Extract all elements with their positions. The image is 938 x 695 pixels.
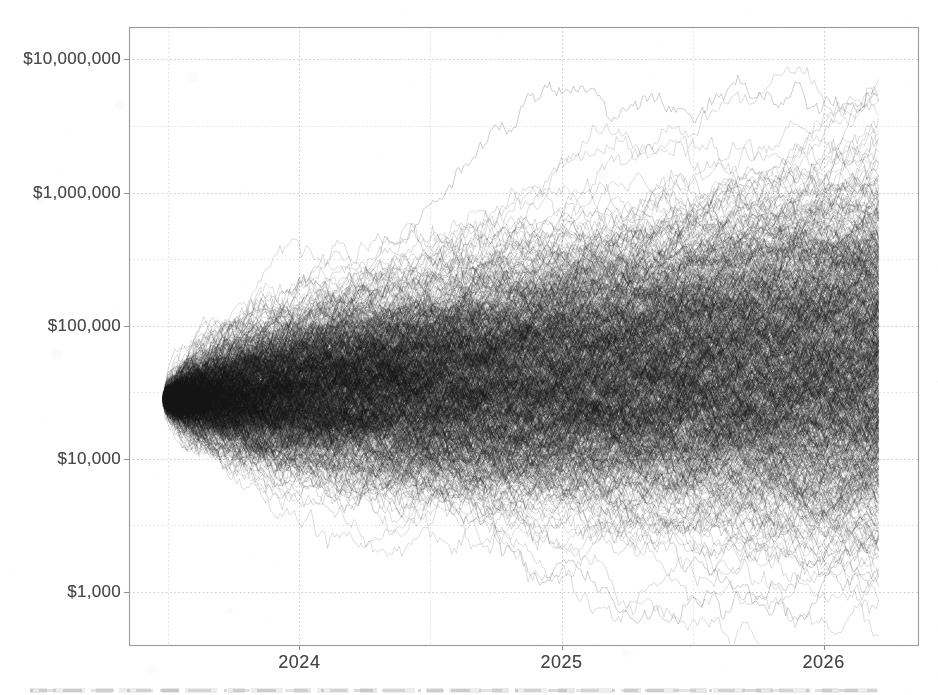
monte-carlo-fan-chart [0,0,938,695]
scanned-chart-page: $10,000,000$1,000,000$100,000$10,000$1,0… [0,0,938,695]
x-tick-label: 2026 [803,652,845,673]
x-tick-label: 2025 [540,652,582,673]
y-tick-label: $100,000 [48,316,121,336]
truncated-caption-artifact [30,688,878,694]
y-tick-label: $10,000,000 [23,49,121,69]
y-tick-label: $1,000 [67,582,121,602]
y-tick-label: $1,000,000 [33,183,121,203]
x-tick-label: 2024 [278,652,320,673]
y-tick-label: $10,000 [57,449,121,469]
